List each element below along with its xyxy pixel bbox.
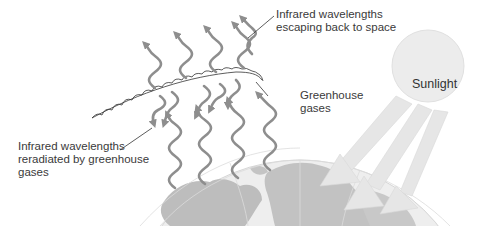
label-sunlight: Sunlight xyxy=(412,78,457,91)
label-line: gases xyxy=(300,102,363,115)
label-line: Infrared wavelengths xyxy=(276,8,396,21)
label-line: escaping back to space xyxy=(276,21,396,34)
label-reradiated-infrared: Infrared wavelengths reradiated by green… xyxy=(18,140,149,179)
label-leader-lines xyxy=(120,16,274,150)
label-line: Infrared wavelengths xyxy=(18,140,149,153)
label-escaping-infrared: Infrared wavelengths escaping back to sp… xyxy=(276,8,396,34)
greenhouse-effect-diagram: Infrared wavelengths escaping back to sp… xyxy=(0,0,485,239)
label-greenhouse-gases: Greenhouse gases xyxy=(300,89,363,115)
label-line: reradiated by greenhouse xyxy=(18,153,149,166)
label-line: Greenhouse xyxy=(300,89,363,102)
cropped-caption-strip xyxy=(18,228,468,239)
label-line: gases xyxy=(18,166,149,179)
sun xyxy=(392,30,464,102)
diagram-artwork xyxy=(0,0,485,239)
